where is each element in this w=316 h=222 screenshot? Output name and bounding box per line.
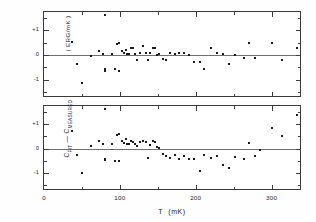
y-axis-tick xyxy=(44,161,47,162)
zero-reference-line-top xyxy=(44,55,300,56)
data-point xyxy=(158,147,160,149)
y-axis-tick xyxy=(298,67,301,68)
y-axis-tick xyxy=(44,173,49,174)
y-axis-tick xyxy=(44,136,47,137)
x-axis-title-symbol: T xyxy=(158,208,163,215)
data-point xyxy=(142,45,144,47)
data-point xyxy=(71,41,73,43)
data-point xyxy=(118,160,120,162)
data-point xyxy=(98,50,100,52)
data-point xyxy=(118,42,120,44)
y-axis-tick xyxy=(298,112,301,113)
data-point xyxy=(125,138,127,140)
data-point xyxy=(158,53,160,55)
plot-area-top xyxy=(44,12,300,96)
y-axis-tick xyxy=(296,173,301,174)
data-point xyxy=(128,143,130,145)
data-point xyxy=(145,52,147,54)
x-axis-tick-label: 300 xyxy=(265,194,279,201)
y-axis-tick xyxy=(44,112,47,113)
y-axis-tick-label: 0 xyxy=(21,145,39,151)
data-point xyxy=(154,141,156,143)
y-axis-tick xyxy=(44,124,49,125)
data-point xyxy=(193,158,195,160)
y-axis-tick xyxy=(44,55,49,56)
x-axis-title-units: (mK) xyxy=(168,208,186,215)
x-axis-tick xyxy=(234,94,235,97)
data-point xyxy=(139,52,141,54)
data-point xyxy=(210,157,212,159)
x-axis-tick xyxy=(158,12,159,15)
data-point xyxy=(281,59,283,61)
x-axis-tick xyxy=(272,92,273,97)
data-point xyxy=(147,157,149,159)
y-axis-title-bottom: CFIT — CMEASURED xyxy=(63,79,72,179)
data-point xyxy=(162,58,164,60)
x-axis-tick xyxy=(158,106,159,109)
data-point xyxy=(125,49,127,51)
data-point xyxy=(111,143,113,145)
x-axis-tick xyxy=(82,94,83,97)
data-point xyxy=(98,140,100,142)
data-point xyxy=(178,158,180,160)
x-axis-title: T (mK) xyxy=(43,208,301,215)
data-point xyxy=(183,52,185,54)
data-point xyxy=(254,57,256,59)
y-axis-tick xyxy=(298,92,301,93)
x-axis-tick xyxy=(196,106,197,111)
data-point xyxy=(162,153,164,155)
data-point xyxy=(145,141,147,143)
data-point xyxy=(203,68,205,70)
x-axis-tick xyxy=(120,92,121,97)
data-point xyxy=(222,164,224,166)
data-point xyxy=(188,54,190,56)
data-point xyxy=(193,61,195,63)
data-point xyxy=(243,57,245,59)
data-point xyxy=(203,154,205,156)
y-axis-tick-label: +1 xyxy=(21,120,39,126)
data-point xyxy=(81,82,83,84)
data-point xyxy=(104,70,106,72)
y-axis-tick xyxy=(44,67,47,68)
figure-container: ( ERG/mK ) CFIT — CMEASURED T (mK) -10+1… xyxy=(0,0,316,222)
data-point xyxy=(123,52,125,54)
data-point xyxy=(81,172,83,174)
data-point xyxy=(271,127,273,129)
data-point xyxy=(178,52,180,54)
y-axis-tick-label: -1 xyxy=(21,169,39,175)
y-axis-tick xyxy=(296,124,301,125)
y-axis-tick-label: +1 xyxy=(21,26,39,32)
data-point xyxy=(154,47,156,49)
y-axis-title-c-measured: C xyxy=(63,129,70,134)
data-point xyxy=(118,70,120,72)
data-point xyxy=(149,144,151,146)
y-axis-tick xyxy=(44,43,47,44)
data-point xyxy=(104,14,106,16)
x-axis-tick xyxy=(272,12,273,17)
data-point xyxy=(76,154,78,156)
data-point xyxy=(259,149,261,151)
y-axis-tick xyxy=(44,149,49,150)
data-point xyxy=(248,42,250,44)
y-axis-tick xyxy=(298,136,301,137)
y-axis-tick xyxy=(298,185,301,186)
y-axis-tick-label: 0 xyxy=(21,51,39,57)
data-point xyxy=(90,55,92,57)
y-axis-tick xyxy=(44,92,47,93)
data-point xyxy=(128,53,130,55)
y-axis-tick-label: -1 xyxy=(21,76,39,82)
data-point xyxy=(149,52,151,54)
data-point xyxy=(199,170,201,172)
data-point xyxy=(174,154,176,156)
y-axis-title-measured-subscript: MEASURED xyxy=(68,100,73,129)
data-point xyxy=(111,53,113,55)
data-point xyxy=(222,53,224,55)
y-axis-title-dash: — xyxy=(63,134,70,145)
data-point xyxy=(243,158,245,160)
y-axis-tick xyxy=(298,161,301,162)
y-axis-tick xyxy=(44,80,49,81)
x-axis-tick xyxy=(120,12,121,17)
data-point xyxy=(118,133,120,135)
data-point xyxy=(114,160,116,162)
data-point xyxy=(248,142,250,144)
